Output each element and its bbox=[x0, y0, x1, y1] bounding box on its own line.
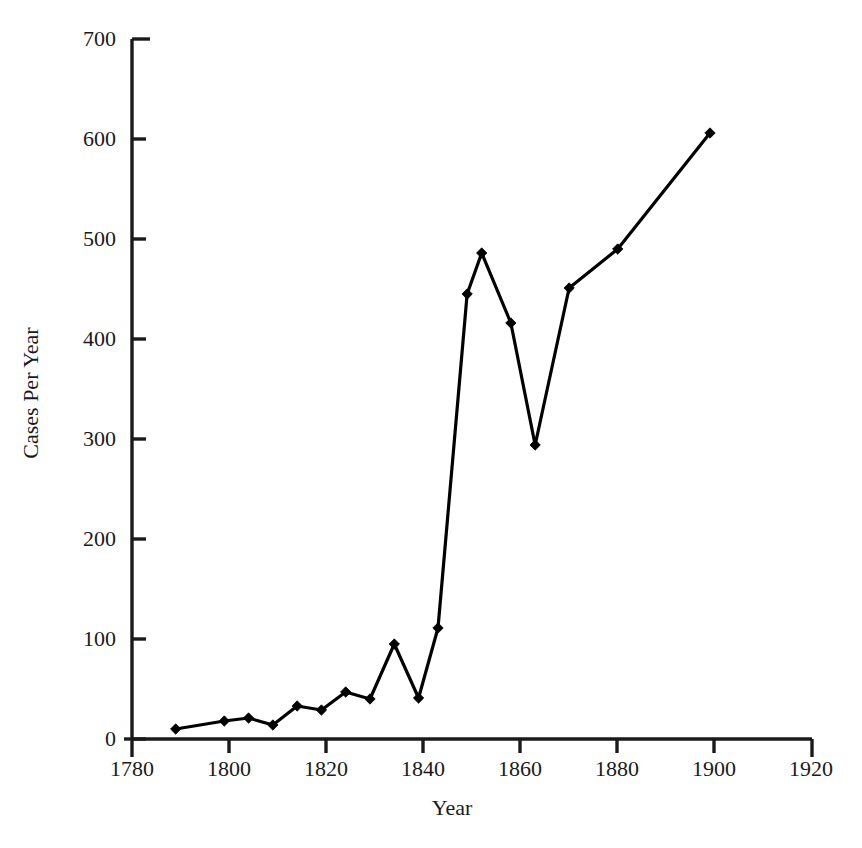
x-axis-ticks bbox=[132, 739, 812, 757]
data-point-marker bbox=[413, 693, 423, 703]
plot-area bbox=[0, 0, 862, 848]
data-point-marker bbox=[365, 694, 375, 704]
series-markers bbox=[171, 128, 716, 734]
data-point-marker bbox=[477, 248, 487, 258]
data-point-marker bbox=[389, 639, 399, 649]
data-point-marker bbox=[171, 724, 181, 734]
data-point-marker bbox=[530, 440, 540, 450]
chart-figure: 700 600 500 400 300 200 100 0 1780 1800 … bbox=[0, 0, 862, 848]
data-series-cases-per-year bbox=[171, 128, 716, 734]
axis-spines bbox=[132, 39, 812, 739]
data-point-marker bbox=[462, 289, 472, 299]
y-axis-ticks bbox=[124, 39, 150, 739]
data-point-marker bbox=[506, 318, 516, 328]
data-point-marker bbox=[433, 623, 443, 633]
series-line bbox=[176, 133, 710, 729]
data-point-marker bbox=[219, 716, 229, 726]
data-point-marker bbox=[243, 713, 253, 723]
